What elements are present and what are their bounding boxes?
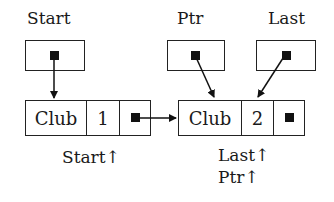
last-to-node2-arrow	[258, 55, 285, 97]
arrows-layer	[0, 0, 334, 202]
ptr-to-node2-arrow	[195, 55, 214, 97]
